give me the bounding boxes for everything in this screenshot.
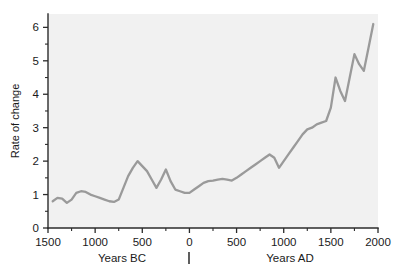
y-tick-label-0: 0 — [33, 222, 39, 234]
era-label-bc: Years BC — [98, 252, 146, 264]
x-tick-label-6: 1500 — [318, 236, 344, 248]
x-tick-label-3: 0 — [186, 236, 192, 248]
y-tick-label-3: 3 — [33, 122, 39, 134]
era-label-ad: Years AD — [266, 252, 314, 264]
y-tick-label-5: 5 — [33, 55, 39, 67]
chart-figure: 0123456 150010005000500100015002000 Rate… — [0, 0, 406, 278]
y-tick-label-1: 1 — [33, 189, 39, 201]
x-tick-label-7: 2000 — [365, 236, 391, 248]
y-tick-label-2: 2 — [33, 155, 39, 167]
x-tick-label-2: 500 — [133, 236, 152, 248]
y-axis-title: Rate of change — [9, 84, 21, 159]
x-tick-label-4: 500 — [227, 236, 246, 248]
x-tick-label-1: 1000 — [82, 236, 108, 248]
y-tick-label-6: 6 — [33, 21, 39, 33]
y-tick-label-4: 4 — [33, 88, 40, 100]
x-tick-label-5: 1000 — [271, 236, 297, 248]
x-tick-label-0: 1500 — [35, 236, 61, 248]
rate-of-change-line-chart: 0123456 150010005000500100015002000 Rate… — [0, 0, 406, 278]
